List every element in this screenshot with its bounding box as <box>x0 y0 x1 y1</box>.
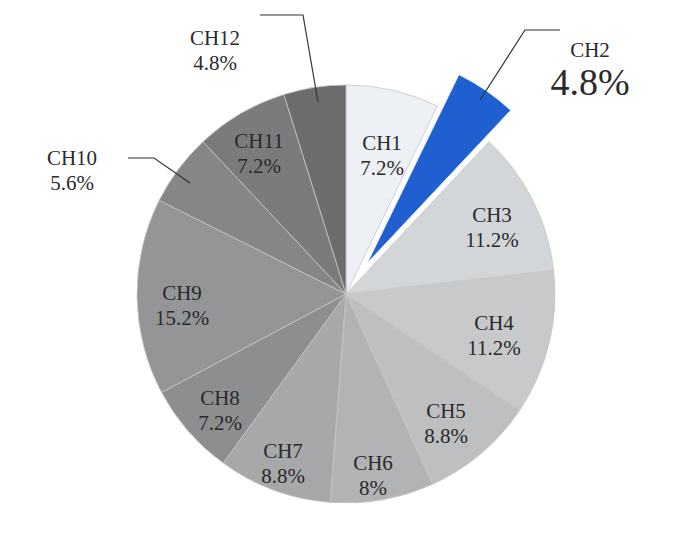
slice-value-ch8: 7.2% <box>198 411 242 435</box>
slice-label-ch1: CH1 <box>362 131 402 155</box>
slice-label-ch12: CH12 <box>190 26 240 50</box>
slice-label-ch2: CH2 <box>570 38 610 62</box>
slice-value-ch9: 15.2% <box>155 306 209 330</box>
slice-label-ch4: CH4 <box>474 311 514 335</box>
slice-value-ch3: 11.2% <box>465 228 518 252</box>
slice-value-ch12: 4.8% <box>193 51 237 75</box>
slice-value-ch7: 8.8% <box>261 464 305 488</box>
pie-chart: CH17.2%CH24.8%CH311.2%CH411.2%CH58.8%CH6… <box>0 0 674 543</box>
slice-value-ch4: 11.2% <box>467 336 520 360</box>
slice-value-ch1: 7.2% <box>360 156 404 180</box>
slice-label-ch11: CH11 <box>234 129 283 153</box>
leader-line-ch2 <box>480 30 560 100</box>
slice-label-ch3: CH3 <box>472 203 512 227</box>
slice-label-ch5: CH5 <box>426 399 466 423</box>
slice-label-ch7: CH7 <box>263 439 303 463</box>
slice-value-ch5: 8.8% <box>424 424 468 448</box>
slice-label-ch6: CH6 <box>353 451 393 475</box>
slice-label-ch8: CH8 <box>200 386 240 410</box>
slice-label-ch9: CH9 <box>162 281 202 305</box>
slice-value-ch2: 4.8% <box>550 61 629 103</box>
slice-value-ch11: 7.2% <box>237 154 281 178</box>
slice-label-ch10: CH10 <box>47 146 97 170</box>
slice-value-ch10: 5.6% <box>50 171 94 195</box>
slice-value-ch6: 8% <box>359 476 387 500</box>
